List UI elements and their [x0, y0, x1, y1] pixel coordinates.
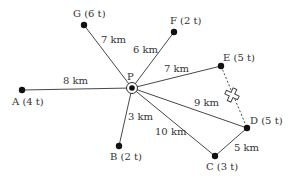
node-b-dot [116, 143, 122, 149]
edge-label: 7 km [101, 34, 127, 45]
edge-label: 10 km [155, 126, 187, 137]
node-e-dot [218, 63, 224, 69]
node-g-dot [81, 22, 87, 28]
edge-label: 9 km [194, 97, 220, 108]
node-c-dot [212, 153, 218, 159]
hub-dot [129, 85, 135, 91]
hub-label: P [127, 71, 134, 82]
road-network-diagram: 7 km6 km7 km9 km10 km3 km8 km5 km G (6 t… [0, 0, 292, 183]
edge-p-a [22, 88, 132, 90]
edge-label: 3 km [128, 111, 154, 122]
edge-label: 6 km [133, 44, 159, 55]
edge-label: 7 km [164, 63, 190, 74]
node-f-dot [171, 29, 177, 35]
cross-icon [223, 86, 242, 105]
node-b-label: B (2 t) [110, 151, 142, 162]
blocked-road-marker-icon [223, 86, 242, 105]
node-g-label: G (6 t) [73, 8, 106, 19]
edge-label: 5 km [234, 142, 260, 153]
node-d-label: D (5 t) [250, 115, 283, 126]
node-a-dot [19, 87, 25, 93]
edge-label: 8 km [63, 75, 89, 86]
node-a-label: A (4 t) [11, 96, 44, 107]
node-e-label: E (5 t) [223, 52, 255, 63]
node-c-label: C (3 t) [206, 161, 238, 172]
node-f-label: F (2 t) [170, 15, 202, 26]
